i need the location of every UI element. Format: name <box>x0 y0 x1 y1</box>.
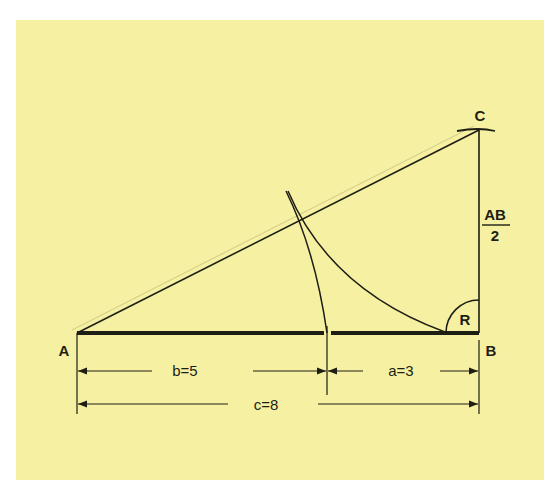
hypotenuse-ac <box>77 130 479 333</box>
golden-section-diagram: b=5 a=3 c=8 A B C R AB 2 <box>0 0 552 500</box>
dim-b-label: b=5 <box>172 362 197 379</box>
dim-a-label: a=3 <box>388 362 413 379</box>
fraction-numerator: AB <box>484 206 506 223</box>
point-label-a: A <box>59 342 70 359</box>
point-label-c: C <box>475 107 486 124</box>
right-angle-label: R <box>460 311 471 328</box>
fraction-denominator: 2 <box>491 227 499 244</box>
dim-c-label: c=8 <box>254 396 279 413</box>
point-label-b: B <box>486 342 497 359</box>
arc-from-a <box>286 191 327 333</box>
ghost-construction-line <box>72 126 474 330</box>
